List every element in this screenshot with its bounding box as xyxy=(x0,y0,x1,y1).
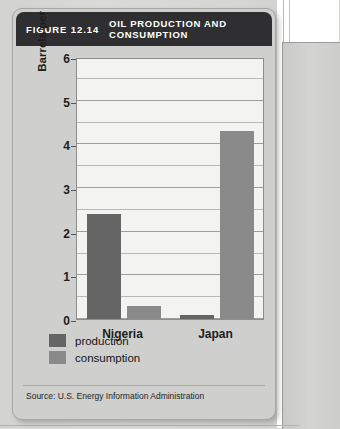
bar-nigeria-production xyxy=(87,214,121,319)
y-tick-label: 0 xyxy=(46,314,70,328)
chart-legend: productionconsumption xyxy=(49,334,140,368)
y-tick-mark xyxy=(71,234,76,235)
legend-label-production: production xyxy=(75,335,129,347)
y-tick-label: 6 xyxy=(46,52,70,66)
legend-swatch-production xyxy=(49,334,66,347)
page-margin-rule-outer xyxy=(283,0,284,44)
y-tick-mark xyxy=(71,103,76,104)
figure-title: OIL PRODUCTION AND CONSUMPTION xyxy=(109,18,262,41)
source-divider xyxy=(23,385,265,386)
y-tick-mark xyxy=(71,321,76,322)
y-tick-mark xyxy=(71,277,76,278)
legend-swatch-consumption xyxy=(49,351,66,364)
source-text: Source: U.S. Energy Information Administ… xyxy=(26,391,204,401)
y-tick-mark xyxy=(71,59,76,60)
gridline xyxy=(77,122,263,123)
page-margin-rule-inner xyxy=(289,0,290,44)
legend-label-consumption: consumption xyxy=(75,352,140,364)
y-tick-label: 2 xyxy=(46,227,70,241)
page-bottom-rule xyxy=(0,425,300,426)
y-tick-label: 1 xyxy=(46,270,70,284)
bar-nigeria-consumption xyxy=(127,306,161,319)
bar-japan-production xyxy=(180,315,214,319)
figure-card: FIGURE 12.14 OIL PRODUCTION AND CONSUMPT… xyxy=(12,8,276,420)
page-adjacent-sheet xyxy=(282,42,340,429)
gridline xyxy=(77,100,263,101)
y-tick-mark xyxy=(71,146,76,147)
plot-wrap: 6543210 NigeriaJapan xyxy=(76,58,264,320)
y-tick-label: 3 xyxy=(46,183,70,197)
bar-japan-consumption xyxy=(220,131,254,319)
gridline xyxy=(77,78,263,79)
y-tick-label: 5 xyxy=(46,96,70,110)
x-axis-label-japan: Japan xyxy=(198,327,233,341)
chart-body: Barrels per day (in millions) 6543210 Ni… xyxy=(16,50,272,380)
legend-item-consumption: consumption xyxy=(49,351,140,364)
y-tick-label: 4 xyxy=(46,139,70,153)
plot-area xyxy=(76,58,264,320)
legend-item-production: production xyxy=(49,334,140,347)
figure-title-bar: FIGURE 12.14 OIL PRODUCTION AND CONSUMPT… xyxy=(16,12,272,46)
y-tick-mark xyxy=(71,190,76,191)
